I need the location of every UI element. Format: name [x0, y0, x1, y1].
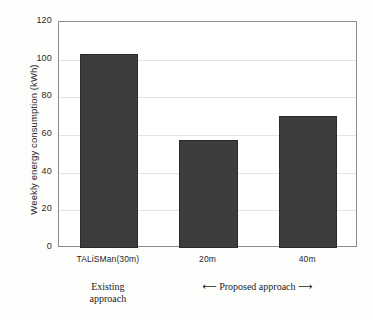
y-tick-label: 60: [12, 129, 52, 138]
annotation-existing-line2: approach: [90, 293, 127, 304]
bar: [179, 140, 237, 248]
annotation-existing-approach: Existing approach: [63, 281, 153, 304]
bar-chart-figure: Weekly energy consumption (kWh) 12010080…: [0, 0, 373, 320]
annotation-existing-line1: Existing: [91, 281, 124, 292]
y-tick-label: 0: [12, 242, 52, 251]
plot-area: [58, 21, 357, 247]
y-tick-label: 80: [12, 91, 52, 100]
y-tick-label: 40: [12, 167, 52, 176]
annotation-proposed-label: Proposed approach: [219, 281, 295, 292]
bar: [80, 54, 138, 248]
right-arrow-icon: ⟶: [298, 281, 312, 292]
x-tick-label: 20m: [158, 254, 258, 264]
x-tick-label: 40m: [257, 254, 357, 264]
bar: [279, 116, 337, 248]
left-arrow-icon: ⟵: [202, 281, 216, 292]
y-tick-label: 100: [12, 54, 52, 63]
annotation-proposed-approach: ⟵ Proposed approach ⟶: [177, 281, 337, 293]
y-tick-label: 120: [12, 16, 52, 25]
x-tick-label: TALiSMan(30m): [58, 254, 158, 264]
y-tick-label: 20: [12, 204, 52, 213]
